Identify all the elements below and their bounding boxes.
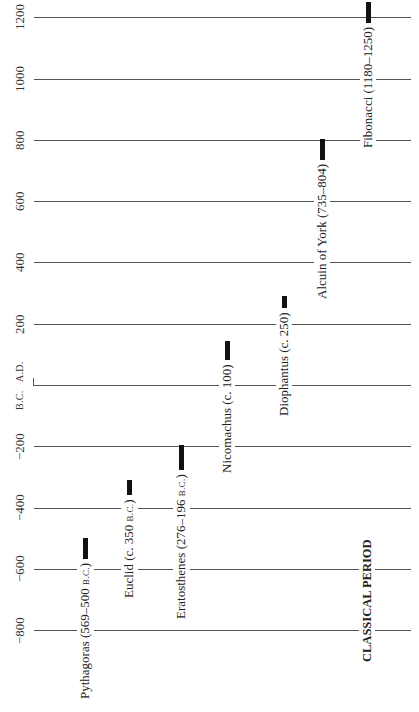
- label-close: ): [121, 499, 136, 503]
- axis-tick-label: −200: [12, 433, 28, 460]
- lifespan-bar: [320, 139, 325, 160]
- label-text: Fibonacci (1180–1250): [360, 27, 375, 148]
- axis-tick-label: 200: [12, 315, 28, 335]
- mathematician-label: Alcuin of York (735–804): [314, 160, 330, 303]
- lifespan-bar: [282, 296, 287, 308]
- label-text: Eratosthenes (276–196: [173, 496, 188, 619]
- axis-tick-label: 600: [12, 192, 28, 212]
- gridline: [34, 140, 411, 141]
- gridline: [34, 324, 411, 325]
- mathematician-label: Euclid (c. 350 B.C.): [121, 495, 138, 602]
- timeline-chart: 12001000800600400200−200−400−600−800A.D.…: [0, 0, 419, 712]
- axis-tick-label: 1200: [12, 4, 28, 30]
- lifespan-bar: [179, 445, 184, 470]
- label-text: Diophantus (c. 250): [276, 312, 291, 416]
- axis-tick-label: 400: [12, 253, 28, 273]
- label-close: ): [173, 474, 188, 478]
- mathematician-label: Diophantus (c. 250): [276, 308, 292, 420]
- era-label-bc: B.C.: [14, 390, 25, 410]
- label-close: ): [77, 563, 92, 567]
- lifespan-bar: [366, 2, 371, 23]
- gridline: [34, 17, 411, 18]
- axis-tick-label: 1000: [12, 66, 28, 92]
- axis-tick-label: −800: [12, 617, 28, 644]
- label-text: Nicomachus (c. 100): [219, 364, 234, 473]
- lifespan-bar: [225, 341, 230, 361]
- axis-tick-label: 800: [12, 131, 28, 151]
- mathematician-label: Fibonacci (1180–1250): [360, 23, 376, 152]
- label-text: Pythagoras (569–500: [77, 585, 92, 699]
- axis-tick-label: −400: [12, 494, 28, 521]
- mathematician-label: Nicomachus (c. 100): [219, 360, 235, 477]
- lifespan-bar: [83, 538, 88, 559]
- label-era: B.C.: [81, 567, 91, 585]
- lifespan-bar: [127, 480, 132, 495]
- gridline: [34, 201, 411, 202]
- era-divider-mark: [33, 378, 34, 386]
- era-label-ad: A.D.: [14, 361, 25, 382]
- gridline: [34, 262, 411, 263]
- mathematician-label: Pythagoras (569–500 B.C.): [77, 559, 94, 703]
- label-era: B.C.: [125, 504, 135, 522]
- gridline: [34, 508, 411, 509]
- label-text: Alcuin of York (735–804): [314, 164, 329, 299]
- mathematician-label: Eratosthenes (276–196 B.C.): [173, 470, 190, 623]
- label-text: Euclid (c. 350: [121, 521, 136, 598]
- label-era: B.C.: [177, 479, 187, 497]
- gridline: [34, 79, 411, 80]
- axis-tick-label: −600: [12, 555, 28, 582]
- classical-period-label: CLASSICAL PERIOD: [359, 536, 375, 665]
